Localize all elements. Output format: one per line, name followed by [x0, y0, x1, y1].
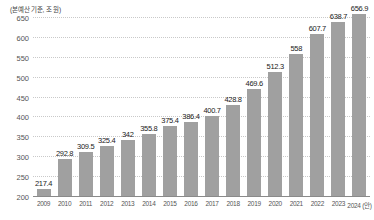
- x-axis-tick-label: 2015: [163, 200, 176, 207]
- x-axis-tick-label: 2011: [79, 200, 92, 207]
- x-axis-tick-label: 2019: [248, 200, 261, 207]
- bar-slot: 292.82010: [54, 17, 75, 196]
- bar-slot: 656.92024 (안): [349, 17, 370, 196]
- chart-unit-caption: (본예산 기준, 조 원): [10, 4, 61, 14]
- bar[interactable]: [331, 22, 345, 197]
- y-axis-tick-label: 350: [16, 133, 29, 142]
- bar[interactable]: [289, 54, 303, 196]
- bar[interactable]: [184, 122, 198, 196]
- bar-value-label: 607.7: [309, 24, 326, 33]
- x-axis-tick-label: 2017: [205, 200, 218, 207]
- bar[interactable]: [100, 146, 114, 196]
- y-axis-tick-label: 650: [16, 14, 29, 23]
- bar[interactable]: [268, 72, 282, 196]
- bar[interactable]: [352, 14, 366, 196]
- y-axis-tick-label: 450: [16, 93, 29, 102]
- bar-slot: 428.82018: [223, 17, 244, 196]
- bar-value-label: 325.4: [98, 136, 115, 145]
- x-axis-tick-label: 2012: [100, 200, 113, 207]
- bar[interactable]: [163, 126, 177, 196]
- x-axis-tick-label: 2014: [142, 200, 155, 207]
- bar-slot: 375.42015: [159, 17, 180, 196]
- bar[interactable]: [247, 89, 261, 196]
- y-axis-tick-label: 550: [16, 53, 29, 62]
- x-axis-tick-label: 2021: [290, 200, 303, 207]
- x-axis-tick-label: 2016: [184, 200, 197, 207]
- bar-value-label: 375.4: [161, 116, 178, 125]
- bar[interactable]: [121, 140, 135, 196]
- bar-value-label: 342: [122, 130, 134, 139]
- bar-value-label: 386.4: [182, 112, 199, 121]
- x-axis-tick-label: 2010: [58, 200, 71, 207]
- bar[interactable]: [142, 134, 156, 196]
- bar-slot: 217.42009: [33, 17, 54, 196]
- x-axis-tick-label: 2022: [311, 200, 324, 207]
- bar[interactable]: [79, 152, 93, 196]
- bar-value-label: 428.8: [224, 95, 241, 104]
- x-axis-tick-label: 2013: [121, 200, 134, 207]
- bar-value-label: 656.9: [351, 4, 368, 13]
- bar-slot: 512.32020: [265, 17, 286, 196]
- bar-value-label: 638.7: [330, 12, 347, 21]
- x-axis-tick-label: 2009: [37, 200, 50, 207]
- y-axis-tick-label: 600: [16, 33, 29, 42]
- budget-bar-chart: (본예산 기준, 조 원) 20025030035040045050055060…: [0, 0, 374, 220]
- x-axis-tick-label: 2020: [269, 200, 282, 207]
- bar[interactable]: [205, 116, 219, 196]
- bar-value-label: 217.4: [35, 179, 52, 188]
- bar-value-label: 292.8: [56, 149, 73, 158]
- bars-group: 217.42009292.82010309.52011325.420123422…: [33, 17, 370, 196]
- x-axis-tick-label: 2024 (안): [347, 200, 371, 210]
- bar-slot: 469.62019: [244, 17, 265, 196]
- bar-value-label: 355.8: [140, 124, 157, 133]
- bar-slot: 309.52011: [75, 17, 96, 196]
- bar-slot: 400.72017: [202, 17, 223, 196]
- bar-slot: 638.72023: [328, 17, 349, 196]
- bar-value-label: 558: [290, 44, 302, 53]
- bar[interactable]: [226, 105, 240, 196]
- y-axis-tick-label: 250: [16, 173, 29, 182]
- bar-slot: 607.72022: [307, 17, 328, 196]
- y-axis-tick-label: 300: [16, 153, 29, 162]
- bar-slot: 386.42016: [180, 17, 201, 196]
- bar-value-label: 400.7: [203, 106, 220, 115]
- bar-slot: 325.42012: [96, 17, 117, 196]
- bar-slot: 3422013: [117, 17, 138, 196]
- bar[interactable]: [37, 189, 51, 196]
- y-axis-tick-label: 400: [16, 113, 29, 122]
- bar-slot: 355.82014: [138, 17, 159, 196]
- bar-value-label: 309.5: [77, 142, 94, 151]
- bar[interactable]: [310, 34, 324, 196]
- y-axis-tick-label: 200: [16, 193, 29, 202]
- x-axis-tick-label: 2023: [332, 200, 345, 207]
- bar-value-label: 512.3: [267, 62, 284, 71]
- bar[interactable]: [58, 159, 72, 196]
- x-axis-tick-label: 2018: [226, 200, 239, 207]
- y-axis-tick-label: 500: [16, 73, 29, 82]
- gridline: 200: [33, 196, 370, 197]
- bar-slot: 5582021: [286, 17, 307, 196]
- bar-value-label: 469.6: [246, 79, 263, 88]
- plot-area: 200250300350400450500550600650 217.42009…: [33, 17, 370, 196]
